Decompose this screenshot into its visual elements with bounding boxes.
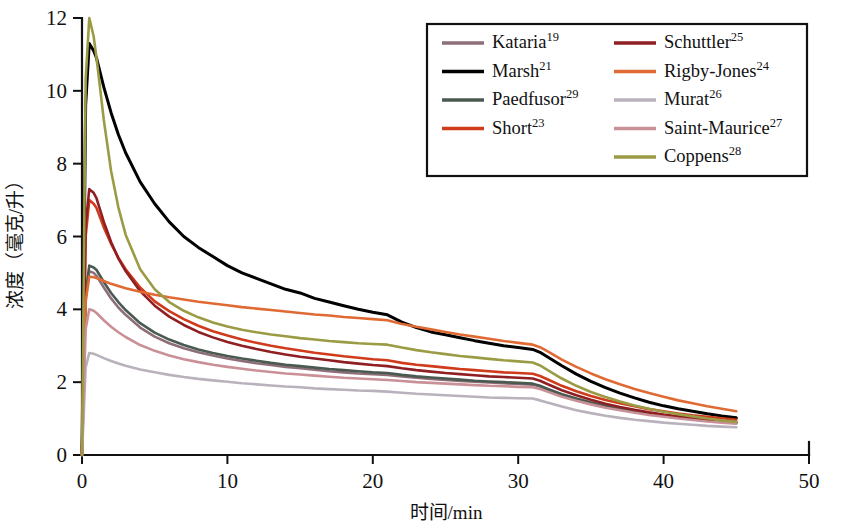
legend-label-superscript: 28 [729, 144, 742, 158]
x-tick-label: 40 [653, 469, 674, 493]
legend-label-superscript: 21 [539, 59, 552, 73]
legend-label-text: Marsh [492, 61, 539, 81]
x-tick-label: 30 [508, 469, 529, 493]
legend-label-paedfusor: Paedfusor29 [492, 87, 578, 109]
series-line-paedfusor [82, 266, 736, 455]
legend-label-text: Murat [664, 89, 710, 109]
y-tick-label: 6 [57, 225, 68, 249]
legend-label-text: Rigby-Jones [664, 61, 757, 81]
legend-label-text: Coppens [664, 146, 729, 166]
legend-label-text: Saint-Maurice [664, 118, 770, 138]
legend-label-superscript: 29 [566, 87, 579, 101]
x-axis-ticks [82, 455, 809, 464]
legend-label-superscript: 19 [546, 30, 559, 44]
legend-label-rigby-jones: Rigby-Jones24 [664, 59, 770, 81]
series-line-rigby-jones [82, 277, 736, 455]
legend-label-text: Short [492, 118, 533, 138]
series-line-saint-maurice [82, 309, 736, 455]
legend-label-superscript: 26 [709, 87, 722, 101]
y-tick-label: 0 [57, 443, 68, 467]
x-tick-label: 0 [77, 469, 88, 493]
legend-label-text: Paedfusor [492, 89, 566, 109]
legend-label-superscript: 24 [757, 59, 770, 73]
x-tick-label: 50 [799, 469, 820, 493]
x-axis-title: 时间/min [410, 502, 483, 523]
series-line-short [82, 200, 736, 455]
series-line-schuttler [82, 189, 736, 455]
y-tick-label: 2 [57, 370, 68, 394]
legend-label-superscript: 25 [731, 30, 744, 44]
legend-label-superscript: 27 [770, 116, 783, 130]
y-tick-label: 4 [57, 297, 68, 321]
y-tick-label: 8 [57, 152, 68, 176]
legend-label-superscript: 23 [532, 116, 545, 130]
y-axis-title: 浓度（毫克/升） [5, 171, 26, 309]
x-tick-label: 10 [217, 469, 238, 493]
y-tick-label: 12 [46, 6, 67, 30]
y-axis-ticks [73, 18, 82, 455]
legend-label-text: Kataria [492, 32, 546, 52]
x-tick-label: 20 [362, 469, 383, 493]
y-tick-label: 10 [46, 79, 67, 103]
legend: Kataria19Marsh21Paedfusor29Short23Schutt… [427, 24, 807, 176]
legend-label-text: Schuttler [664, 32, 731, 52]
y-axis-tick-labels: 024681012 [46, 6, 68, 467]
chart-figure: 024681012 01020304050 时间/min 浓度（毫克/升） Ka… [0, 0, 842, 528]
concentration-time-line-chart: 024681012 01020304050 时间/min 浓度（毫克/升） Ka… [0, 0, 842, 528]
legend-label-saint-maurice: Saint-Maurice27 [664, 116, 782, 138]
x-axis-tick-labels: 01020304050 [77, 469, 820, 493]
